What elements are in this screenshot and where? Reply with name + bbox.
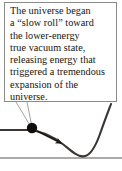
ball-marker xyxy=(27,123,37,133)
slow-roll-diagram-figure: The universe began a “slow roll” toward … xyxy=(0,0,122,171)
ball-and-arrow-layer xyxy=(0,0,122,171)
motion-arrow xyxy=(37,131,61,143)
